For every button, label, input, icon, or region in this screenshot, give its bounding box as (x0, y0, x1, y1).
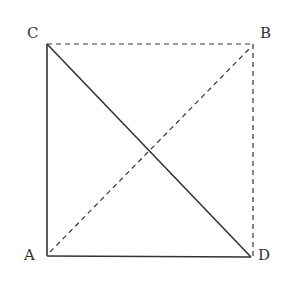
label-b: B (260, 24, 271, 42)
label-d: D (258, 246, 270, 264)
segment-cd (47, 44, 251, 257)
square-diagram: C B A D (0, 0, 296, 281)
label-c: C (27, 24, 38, 42)
segment-ad (47, 256, 251, 257)
label-a: A (23, 246, 35, 264)
